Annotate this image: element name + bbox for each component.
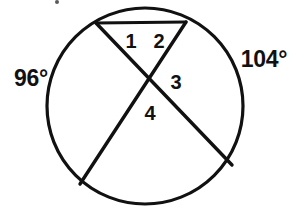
angle-label-1: 1	[125, 31, 136, 51]
angle-label-3: 3	[170, 72, 181, 92]
geometry-figure: 1 2 3 4 96° 104°	[0, 0, 296, 209]
chord-top	[96, 22, 186, 23]
angle-label-2: 2	[153, 31, 164, 51]
angle-label-4: 4	[144, 103, 155, 123]
arc-measure-right: 104°	[241, 48, 287, 71]
arc-measure-left: 96°	[14, 67, 48, 90]
scan-artifact-speck	[55, 0, 59, 4]
